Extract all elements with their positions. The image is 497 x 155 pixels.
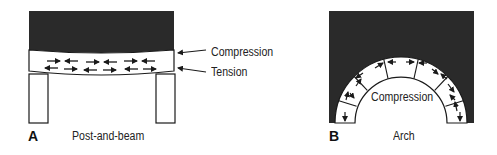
arch-caption: Arch — [393, 129, 415, 143]
panel-letter-a: A — [28, 128, 38, 144]
panel-letter-b: B — [329, 128, 339, 144]
right-post — [156, 74, 175, 123]
arch-diagram — [329, 11, 474, 123]
post-and-beam-diagram — [29, 11, 206, 123]
tension-callout-label: Tension — [211, 65, 247, 79]
beam — [29, 50, 174, 75]
callout-leaders — [178, 50, 206, 72]
left-post — [29, 74, 48, 123]
compression-callout-label: Compression — [211, 45, 273, 59]
post-and-beam-caption: Post-and-beam — [72, 129, 144, 143]
arch-compression-label: Compression — [371, 90, 433, 104]
load-mass — [29, 11, 174, 53]
